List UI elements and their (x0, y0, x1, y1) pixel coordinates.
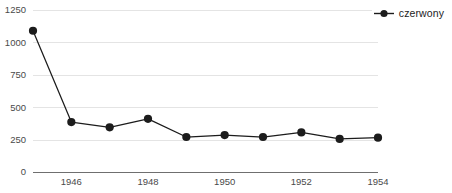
x-tick-label-1954: 1954 (367, 176, 388, 187)
data-point-1949 (182, 133, 190, 141)
data-point-1951 (259, 133, 267, 141)
chart-legend: czerwony (372, 6, 446, 20)
series-marker-group (29, 27, 382, 143)
line-chart: 025050075010001250 19461948195019521954 (0, 0, 452, 193)
data-point-1950 (221, 131, 229, 139)
y-tick-label-750: 750 (10, 69, 26, 80)
legend-entry-label: czerwony (399, 7, 444, 19)
x-axis-tick-group: 19461948195019521954 (61, 176, 389, 187)
y-axis-tick-group: 025050075010001250 (5, 4, 26, 177)
data-point-1954 (374, 134, 382, 142)
y-tick-label-250: 250 (10, 134, 26, 145)
y-tick-label-1000: 1000 (5, 37, 26, 48)
x-tick-label-1948: 1948 (137, 176, 158, 187)
x-tick-label-1952: 1952 (291, 176, 312, 187)
data-point-1952 (297, 128, 305, 136)
data-point-1945 (29, 27, 37, 35)
series-line-czerwony (33, 31, 378, 139)
legend-dot-marker-icon (374, 8, 394, 19)
data-point-1947 (106, 123, 114, 131)
gridline-group (33, 11, 378, 141)
y-tick-label-0: 0 (21, 166, 26, 177)
y-tick-label-500: 500 (10, 102, 26, 113)
data-point-1948 (144, 115, 152, 123)
data-point-1946 (67, 118, 75, 126)
y-tick-label-1250: 1250 (5, 4, 26, 15)
x-tick-label-1950: 1950 (214, 176, 235, 187)
data-point-1953 (336, 135, 344, 143)
x-tick-label-1946: 1946 (61, 176, 82, 187)
figure-container: 025050075010001250 19461948195019521954 … (0, 0, 452, 193)
